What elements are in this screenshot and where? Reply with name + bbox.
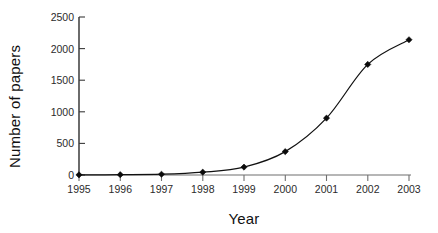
x-tick-label-2001: 2001 xyxy=(315,183,339,195)
y-axis-title: Number of papers xyxy=(6,45,23,168)
y-tick-label-500: 500 xyxy=(56,137,74,149)
y-tick-label-1500: 1500 xyxy=(51,74,75,86)
y-tick-label-2500: 2500 xyxy=(51,11,75,23)
y-tick-label-1000: 1000 xyxy=(51,106,75,118)
x-tick-label-1999: 1999 xyxy=(232,183,256,195)
line-chart: Number of papers Year 2500 2000 1500 100… xyxy=(0,0,438,233)
x-axis-tick-labels: 1995 1996 1997 1998 1999 2000 2001 2002 … xyxy=(67,183,421,195)
x-tick-label-1996: 1996 xyxy=(109,183,133,195)
x-tick-label-2002: 2002 xyxy=(356,183,380,195)
x-tick-label-2003: 2003 xyxy=(397,183,421,195)
y-tick-label-2000: 2000 xyxy=(51,43,75,55)
y-tick-label-0: 0 xyxy=(68,169,74,181)
x-tick-label-1995: 1995 xyxy=(67,183,91,195)
x-tick-label-2000: 2000 xyxy=(274,183,298,195)
x-tick-label-1997: 1997 xyxy=(150,183,174,195)
x-axis-title: Year xyxy=(228,210,259,227)
x-tick-label-1998: 1998 xyxy=(191,183,215,195)
figure-container: Number of papers Year 2500 2000 1500 100… xyxy=(0,0,438,233)
